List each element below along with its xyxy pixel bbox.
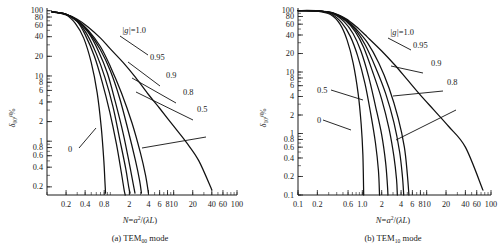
panel-b-label-g1: |g|=1.0 <box>390 28 414 37</box>
panel-a-y-ticks <box>47 11 52 187</box>
curve-0.95 <box>52 12 130 193</box>
panel-b-label-09: 0.9 <box>431 59 441 68</box>
curve-0.5 <box>298 10 380 195</box>
svg-text:0.1: 0.1 <box>293 200 303 209</box>
curve-|g|=1.0 <box>298 11 483 191</box>
panel-a-axes <box>47 8 237 195</box>
svg-text:2: 2 <box>380 200 384 209</box>
panel-a-caption: (a) TEM00 mode <box>112 233 169 244</box>
panel-b-curves <box>298 10 483 195</box>
svg-text:1.0: 1.0 <box>357 200 367 209</box>
svg-text:0.2: 0.2 <box>284 172 294 181</box>
svg-text:0.2: 0.2 <box>33 182 43 191</box>
panel-a-x-axis-title: N=a2/(λL) <box>122 215 157 225</box>
svg-text:2: 2 <box>290 111 294 120</box>
svg-text:0.4: 0.4 <box>80 200 90 209</box>
svg-text:40: 40 <box>286 31 294 40</box>
svg-text:6: 6 <box>39 86 43 95</box>
panel-b-y-axis-title: δ10/% <box>258 108 269 127</box>
svg-text:4: 4 <box>399 200 403 209</box>
svg-text:40: 40 <box>208 200 216 209</box>
panel-a-label-g1: |g|=1.0 <box>122 26 146 35</box>
svg-text:60: 60 <box>219 200 227 209</box>
svg-text:0.6: 0.6 <box>33 151 43 160</box>
curve-0 <box>298 11 364 195</box>
svg-text:6: 6 <box>158 200 162 209</box>
svg-text:0.1: 0.1 <box>284 191 294 200</box>
panel-a-label-05: 0.5 <box>197 105 207 114</box>
panel-a-curves <box>52 12 212 195</box>
svg-text:20: 20 <box>189 200 197 209</box>
panel-a: 1008060402010864210.80.60.40.2 0.20.40.8… <box>0 0 250 250</box>
svg-text:4: 4 <box>290 92 294 101</box>
panel-a-y-axis-title: δ00/% <box>7 108 18 127</box>
curve-0.7 <box>52 12 125 195</box>
svg-text:60: 60 <box>286 20 294 29</box>
svg-text:10: 10 <box>423 200 431 209</box>
svg-text:20: 20 <box>442 200 450 209</box>
svg-text:4: 4 <box>39 98 43 107</box>
curve-0.95 <box>298 11 397 195</box>
svg-text:100: 100 <box>231 200 243 209</box>
curve-0 <box>52 12 106 193</box>
svg-text:60: 60 <box>35 21 43 30</box>
svg-text:2: 2 <box>127 200 131 209</box>
panel-b-label-095: 0.95 <box>413 41 428 50</box>
svg-text:0.4: 0.4 <box>33 163 43 172</box>
panel-b-label-0: 0 <box>317 116 321 125</box>
svg-text:0.2: 0.2 <box>61 200 71 209</box>
svg-text:0.4: 0.4 <box>284 154 294 163</box>
panel-b-label-08: 0.8 <box>447 78 457 87</box>
svg-text:6: 6 <box>410 200 414 209</box>
curve-0.8 <box>298 11 409 195</box>
panel-a-x-tick-labels: 0.20.40.8246810204060100 <box>61 200 243 209</box>
panel-a-label-08: 0.8 <box>183 88 193 97</box>
panel-b-y-ticks <box>298 11 303 195</box>
svg-text:20: 20 <box>35 52 43 61</box>
curve-0.6 <box>298 10 388 195</box>
svg-text:10: 10 <box>170 200 178 209</box>
svg-text:2: 2 <box>39 117 43 126</box>
panel-b-x-tick-labels: 0.10.20.61.0246810204060100 <box>293 200 497 209</box>
curve-0.5 <box>52 12 148 193</box>
svg-text:0.6: 0.6 <box>343 200 353 209</box>
svg-text:0.6: 0.6 <box>284 143 294 152</box>
svg-text:4: 4 <box>146 200 150 209</box>
panel-a-label-0: 0 <box>68 145 72 154</box>
panel-b-x-axis-title: N=a2/(λL) <box>375 215 410 225</box>
panel-b: 1008060402010864210.80.60.40.20.1 0.10.2… <box>251 0 501 250</box>
panel-b-x-ticks <box>298 190 491 195</box>
panel-a-x-ticks <box>47 190 237 195</box>
panel-a-label-09: 0.9 <box>166 71 176 80</box>
svg-text:40: 40 <box>35 32 43 41</box>
svg-text:20: 20 <box>286 49 294 58</box>
svg-text:0.2: 0.2 <box>312 200 322 209</box>
curve-|g|=1.0 <box>52 12 212 190</box>
panel-b-plot: 1008060402010864210.80.60.40.20.1 0.10.2… <box>251 0 501 250</box>
svg-text:100: 100 <box>485 200 497 209</box>
figure-diffraction-loss: 1008060402010864210.80.60.40.2 0.20.40.8… <box>0 0 501 250</box>
svg-text:40: 40 <box>461 200 469 209</box>
panel-a-plot: 1008060402010864210.80.60.40.2 0.20.40.8… <box>0 0 250 250</box>
panel-a-label-095: 0.95 <box>150 53 165 62</box>
curve-0.8 <box>52 12 141 193</box>
svg-text:60: 60 <box>473 200 481 209</box>
panel-b-label-05: 0.5 <box>317 86 327 95</box>
svg-text:6: 6 <box>290 81 294 90</box>
panel-a-y-tick-labels: 1008060402010864210.80.60.40.2 <box>31 6 43 191</box>
panel-b-y-tick-labels: 1008060402010864210.80.60.40.20.1 <box>282 6 294 199</box>
svg-text:0.8: 0.8 <box>99 200 109 209</box>
panel-b-caption: (b) TEM10 mode <box>364 233 421 244</box>
